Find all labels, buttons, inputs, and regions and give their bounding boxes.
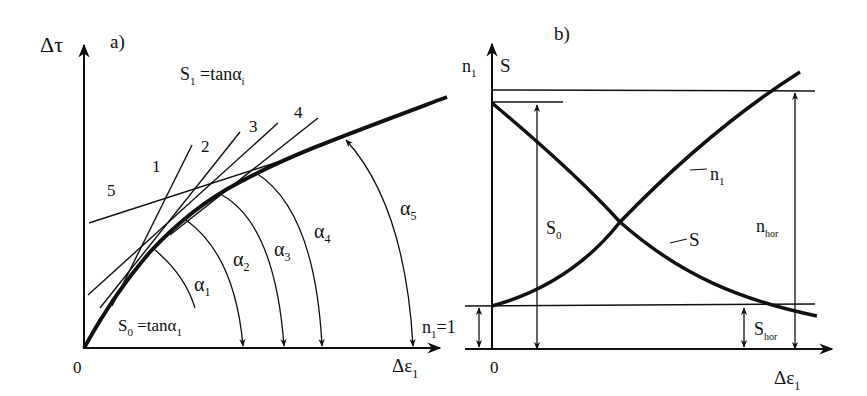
s-leader — [670, 239, 687, 243]
tangent-label-4: 4 — [294, 103, 303, 122]
angle-arc-5 — [346, 140, 413, 346]
tangent-label-5: 5 — [107, 181, 116, 200]
angle-label-1: α1 — [194, 273, 210, 299]
y-axis-label-n1: n1 — [462, 56, 477, 79]
angle-arc-3 — [222, 195, 284, 346]
unity-level-line — [465, 304, 815, 306]
curve-label-s: S — [689, 229, 700, 250]
panel-a: Δτ a) S1 =tanαi S0 =tanα1 1 2 3 4 5 α1 α… — [40, 31, 447, 381]
origin-label-a: 0 — [73, 358, 82, 377]
curve-n1 — [492, 72, 800, 306]
angle-arc-1 — [155, 250, 195, 308]
tangent-label-1: 1 — [152, 157, 161, 176]
angle-label-2: α2 — [233, 248, 249, 274]
x-axis-label-b: Δε1 — [774, 367, 800, 393]
diagram-canvas: Δτ a) S1 =tanαi S0 =tanα1 1 2 3 4 5 α1 α… — [0, 0, 867, 396]
tangent-line-4 — [170, 118, 318, 235]
y-axis-label-a: Δτ — [40, 32, 63, 57]
formula-s0: S0 =tanα1 — [118, 316, 182, 338]
x-axis-label-a: Δε1 — [392, 355, 418, 381]
panel-a-label: a) — [110, 31, 125, 53]
curve-S — [492, 103, 817, 316]
origin-label-b: 0 — [490, 358, 499, 377]
n1-leader — [690, 169, 707, 170]
n-hor-label: nhor — [756, 216, 779, 239]
angle-label-4: α4 — [314, 220, 330, 246]
panel-b-label: b) — [554, 23, 570, 45]
angle-label-3: α3 — [274, 238, 290, 264]
y-axis-label-s: S — [500, 55, 511, 76]
tangent-line-3 — [88, 123, 278, 295]
curve-label-n1: n1 — [710, 164, 725, 187]
formula-s1: S1 =tanαi — [180, 64, 245, 87]
s-hor-label: Shor — [754, 319, 778, 342]
tangent-label-3: 3 — [249, 117, 258, 136]
panel-b: b) n1 S n1 S S0 nhor Shor n1=1 0 Δε1 — [422, 23, 832, 393]
tangent-label-2: 2 — [201, 137, 210, 156]
n-hor-level-line — [492, 90, 815, 91]
angle-label-5: α5 — [400, 197, 416, 223]
n1-equals-1-label: n1=1 — [422, 317, 456, 340]
s0-label: S0 — [546, 218, 562, 241]
